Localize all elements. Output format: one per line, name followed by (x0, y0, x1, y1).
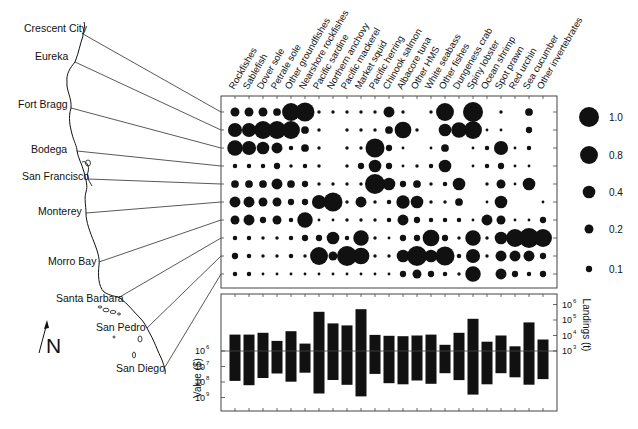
data-bubble (497, 216, 506, 225)
figure: Crescent CityEurekaFort BraggBodegaSan F… (0, 0, 638, 429)
value-landings-bar (258, 333, 269, 378)
data-bubble (400, 271, 406, 277)
data-bubble (245, 108, 254, 117)
data-bubble (359, 182, 362, 185)
data-bubble (272, 143, 283, 154)
right-axis-exponent: 4 (573, 329, 577, 335)
right-axis-exponent: 5 (573, 313, 577, 319)
data-bubble (429, 110, 432, 113)
port-label: Morro Bay (48, 255, 97, 267)
data-bubble (233, 164, 237, 168)
data-bubble (230, 197, 241, 208)
channel-island (138, 336, 142, 342)
data-bubble (512, 271, 518, 277)
data-bubble (373, 200, 376, 203)
data-bubble (415, 128, 418, 131)
data-bubble (499, 110, 502, 113)
data-bubble (345, 146, 348, 149)
data-bubble (415, 164, 418, 167)
data-bubble (373, 128, 376, 131)
data-bubble (429, 218, 433, 222)
data-bubble (275, 254, 278, 257)
data-bubble (485, 236, 488, 239)
data-bubble (303, 164, 307, 168)
data-bubble (345, 218, 348, 221)
left-axis-exponent: 6 (206, 344, 210, 350)
right-axis-title: Landings (t) (581, 299, 592, 352)
data-bubble (542, 201, 545, 204)
data-bubble (353, 230, 369, 246)
data-bubble (526, 127, 532, 133)
channel-island (133, 352, 136, 358)
coast-map: Crescent CityEurekaFort BraggBodegaSan F… (18, 22, 165, 374)
data-bubble (232, 253, 238, 259)
value-landings-bar (468, 319, 479, 395)
data-bubble (485, 146, 489, 150)
data-bubble (282, 121, 300, 139)
data-bubble (443, 200, 446, 203)
port-label: Eureka (35, 50, 68, 62)
value-landings-bar (314, 312, 325, 394)
value-landings-bar (272, 341, 283, 374)
data-bubble (514, 165, 517, 168)
channel-island (113, 336, 115, 338)
data-bubble (317, 146, 320, 149)
data-bubble (413, 180, 421, 188)
legend-label: 1.0 (609, 112, 623, 123)
data-bubble (429, 164, 433, 168)
data-bubble (302, 199, 308, 205)
value-landings-bar (384, 336, 395, 383)
value-landings-bar (454, 333, 465, 380)
data-bubble (302, 235, 308, 241)
data-bubble (527, 146, 531, 150)
data-bubble (464, 121, 482, 139)
data-bubble (495, 196, 508, 209)
data-bubble (331, 182, 334, 185)
data-bubble (369, 160, 382, 173)
value-landings-bar (538, 340, 549, 380)
data-bubble (528, 219, 531, 222)
data-bubble (443, 182, 447, 186)
data-bubble (247, 254, 251, 258)
data-bubble (534, 229, 552, 247)
value-landings-bar-chart: 106107108109103104105106Value ($)Landing… (192, 294, 592, 411)
legend-label: 0.4 (609, 187, 623, 198)
data-bubble (527, 272, 531, 276)
right-axis-exponent: 6 (573, 298, 577, 304)
data-bubble (358, 163, 364, 169)
data-bubble (423, 230, 440, 247)
port-leader-line (99, 220, 221, 262)
data-bubble (359, 146, 362, 149)
data-bubble (233, 236, 237, 240)
data-bubble (430, 147, 433, 150)
data-bubble (304, 273, 307, 276)
data-bubble (345, 236, 349, 240)
legend-label: 0.1 (609, 264, 623, 275)
data-bubble (227, 140, 243, 156)
data-bubble (275, 236, 278, 239)
value-landings-bar (440, 345, 451, 373)
data-bubble (472, 147, 475, 150)
data-bubble (247, 236, 251, 240)
data-bubble (345, 110, 348, 113)
data-bubble (439, 160, 452, 173)
data-bubble (231, 216, 240, 225)
data-bubble (287, 180, 295, 188)
data-bubble (317, 182, 320, 185)
data-bubble (472, 219, 475, 222)
value-landings-bar (412, 336, 423, 381)
data-bubble (245, 180, 253, 188)
port-leader-line (75, 62, 221, 130)
data-bubble (289, 218, 293, 222)
value-landings-bar (230, 335, 241, 381)
port-label: San Diego (116, 362, 165, 374)
channel-island (110, 311, 116, 314)
left-axis-exponent: 8 (206, 375, 210, 381)
data-bubble (436, 247, 455, 266)
data-bubble (373, 236, 376, 239)
data-bubble (374, 273, 377, 276)
right-axis-exponent: 3 (573, 344, 577, 350)
channel-island (118, 313, 121, 315)
data-bubble (525, 108, 533, 116)
data-bubble (387, 218, 391, 222)
